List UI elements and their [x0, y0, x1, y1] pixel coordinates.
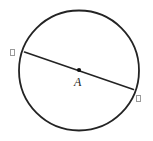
center-point-dot	[77, 68, 81, 72]
circle-diagram-figure: A	[0, 0, 153, 141]
center-point-label: A	[74, 76, 81, 88]
endpoint-left-label-placeholder-icon	[10, 49, 15, 56]
circle-diagram-canvas	[0, 0, 153, 141]
endpoint-right-label-placeholder-icon	[136, 95, 141, 102]
